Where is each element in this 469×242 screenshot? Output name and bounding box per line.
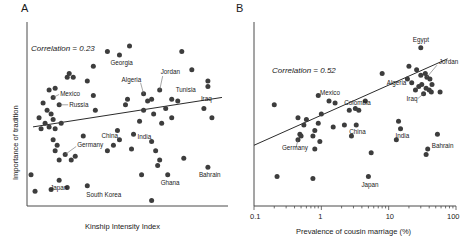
data-point [429,89,434,94]
data-point [201,106,206,111]
data-point [55,143,60,148]
data-point [53,86,58,91]
x-tick-label: 10 [386,212,394,221]
data-point [319,112,324,117]
data-point [181,156,186,161]
data-point [53,126,58,131]
data-point [93,108,98,113]
country-label: Colombia [344,99,371,106]
data-point [47,88,52,93]
data-point [316,121,321,126]
data-point [123,102,128,107]
data-point [169,115,174,120]
data-point [369,150,374,155]
country-label: Tunisia [176,86,197,93]
country-label: Bahrain [432,142,454,149]
data-point [356,108,361,113]
data-point [425,146,430,151]
data-point [57,158,62,163]
data-point [317,139,322,144]
data-point [57,178,62,183]
data-point [51,117,56,122]
data-point [301,123,306,128]
data-point [396,119,401,124]
data-point [414,67,419,72]
data-point [304,117,309,122]
country-label: China [101,132,118,139]
data-point [205,165,210,170]
data-point [435,132,440,137]
data-point [209,115,214,120]
data-point [380,71,385,76]
data-point [312,146,317,151]
data-point [418,45,423,50]
data-point [159,121,164,126]
country-label: India [396,132,410,139]
data-point [163,106,168,111]
country-label: Ghana [161,179,180,186]
country-label: Germany [282,144,309,152]
data-point [105,49,110,54]
country-label: Japan [361,181,379,189]
data-point [327,99,332,104]
data-point [91,64,96,69]
data-point [105,148,110,153]
data-point [29,172,34,177]
data-point [165,172,170,177]
data-point [149,198,154,203]
x-tick-label: 100 [447,212,460,221]
country-label: Russia [69,101,89,108]
country-label: Jordan [161,68,181,75]
data-point [205,84,210,89]
country-label: India [138,133,152,140]
data-point [406,64,411,69]
data-point [312,128,317,133]
data-point [331,124,336,129]
data-point [37,115,42,120]
data-point [169,97,174,102]
data-point [67,71,72,76]
data-point [155,163,160,168]
country-label: Mexico [320,89,340,96]
panel-a-plot-area: GeorgiaMexicoRussiaAlgeriaJordanTunisiaI… [0,0,235,242]
data-point [45,108,50,113]
data-point [333,100,338,105]
x-tick-label: 1 [318,212,322,221]
data-point [125,97,130,102]
data-point [53,148,58,153]
data-point [59,121,64,126]
data-point [149,97,154,102]
data-point [39,126,44,131]
data-point [175,99,180,104]
data-point [153,148,158,153]
data-point [398,126,403,131]
data-point [137,119,142,124]
data-point [141,108,146,113]
data-point [275,174,280,179]
data-point [81,134,86,139]
data-point [179,49,184,54]
country-label: Iraq [407,95,418,103]
country-label: Algeria [387,79,407,87]
figure-container: A Importance of tradition Correlation = … [0,0,469,242]
data-point [41,100,46,105]
country-label: Egypt [413,36,429,44]
data-point [424,152,429,157]
country-label: South Korea [86,191,122,198]
data-point [295,115,300,120]
data-point [310,134,315,139]
data-point [438,89,443,94]
data-point [73,154,78,159]
data-point [151,112,156,117]
data-point [272,102,277,107]
country-label: Iraq [201,95,212,103]
data-point [131,132,136,137]
country-label: Jordan [439,58,459,65]
data-point [429,82,434,87]
data-point [129,146,134,151]
data-point [409,80,414,85]
country-label: Algeria [122,76,142,84]
data-point [413,88,418,93]
data-point [354,123,359,128]
data-point [33,189,38,194]
